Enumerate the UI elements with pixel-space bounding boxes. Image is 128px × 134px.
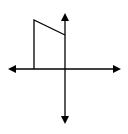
shape-outline xyxy=(34,20,65,69)
arrow-down-icon xyxy=(61,116,69,124)
coordinate-diagram xyxy=(0,0,128,134)
arrow-up-icon xyxy=(61,13,69,21)
arrow-left-icon xyxy=(8,65,16,73)
arrow-right-icon xyxy=(113,65,121,73)
